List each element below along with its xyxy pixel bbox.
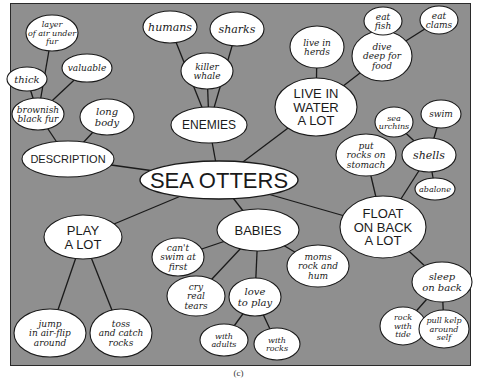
node-label: abalone — [419, 185, 451, 194]
node-moms-rock: momsrock andhum — [287, 245, 349, 287]
node-babies: BABIES — [217, 209, 299, 251]
node-killer-whale: killerwhale — [181, 53, 233, 89]
node-label: stomach — [347, 160, 385, 170]
node-label: rocks — [109, 338, 134, 348]
node-cry-real-tears: cryrealtears — [167, 276, 225, 316]
node-description: DESCRIPTION — [22, 141, 114, 177]
node-toss-and-catch: tossand catchrocks — [90, 309, 152, 357]
node-label: hum — [308, 271, 328, 281]
node-label: on back — [422, 282, 462, 293]
node-label: clams — [426, 20, 453, 30]
node-enemies: ENEMIES — [171, 107, 247, 143]
node-label: shells — [413, 149, 445, 162]
node-label: first — [168, 262, 188, 272]
node-label: sleep — [429, 271, 456, 282]
node-layer-of-air: layerof air underfur — [26, 15, 78, 51]
node-label: tears — [184, 301, 208, 311]
node-label: tide — [395, 330, 411, 339]
node-brownish-black-fur: brownishblack fur — [12, 98, 64, 130]
node-abalone: abalone — [415, 178, 455, 200]
node-with-rocks: withrocks — [254, 328, 300, 360]
node-label: self — [437, 333, 453, 342]
node-label: urchins — [379, 122, 409, 131]
node-sharks: sharks — [210, 12, 264, 46]
node-label: fur — [45, 37, 59, 46]
node-shells: shells — [402, 138, 456, 172]
node-jump-in-air: jumpin air-fliparound — [14, 309, 86, 357]
node-swim: swim — [421, 100, 461, 128]
nodes-layer: SEA OTTERSDESCRIPTIONbrownishblack furla… — [7, 6, 472, 360]
node-love-to-play: loveto play — [229, 278, 281, 316]
node-label: sharks — [219, 23, 256, 36]
node-live-in-herds: live inherds — [290, 26, 344, 68]
node-thick: thick — [7, 67, 47, 91]
node-label: to play — [238, 297, 273, 308]
node-label: A LOT — [65, 237, 102, 252]
node-label: body — [95, 117, 120, 128]
node-label: DESCRIPTION — [30, 153, 105, 165]
node-label: swim — [429, 109, 453, 119]
concept-map: SEA OTTERSDESCRIPTIONbrownishblack furla… — [0, 0, 477, 382]
node-eat-clams: eatclams — [420, 6, 458, 34]
node-label: humans — [148, 21, 192, 34]
node-sleep-on-back: sleepon back — [412, 262, 472, 302]
node-play-a-lot: PLAYA LOT — [44, 215, 122, 259]
node-live-in-water: LIVE INWATERA LOT — [275, 78, 357, 136]
node-cant-swim: can'tswim atfirst — [152, 238, 204, 276]
node-with-adults: withadults — [200, 324, 248, 356]
node-label: valuable — [68, 63, 106, 73]
figure-caption: (c) — [0, 368, 477, 378]
node-label: A LOT — [298, 113, 335, 128]
node-float-on-back: FLOATON BACKA LOT — [340, 196, 426, 258]
node-pull-kelp: pull kelparoundself — [419, 310, 469, 348]
node-label: SEA OTTERS — [150, 168, 288, 193]
node-eat-fish: eatfish — [364, 7, 402, 35]
node-label: adults — [212, 340, 237, 349]
node-label: love — [245, 286, 266, 297]
node-sea-urchins: seaurchins — [375, 107, 413, 137]
node-label: whale — [193, 71, 220, 81]
node-label: herds — [304, 47, 330, 57]
node-label: long — [96, 106, 118, 117]
node-humans: humans — [143, 11, 197, 43]
node-label: ENEMIES — [182, 118, 236, 132]
node-label: rocks — [266, 344, 288, 353]
node-label: thick — [14, 74, 39, 85]
node-put-rocks: putrocks onstomach — [336, 134, 396, 176]
node-label: fish — [374, 21, 391, 31]
node-valuable: valuable — [62, 54, 112, 82]
node-long-body: longbody — [80, 99, 134, 135]
node-sea-otters: SEA OTTERS — [140, 161, 298, 199]
node-label: A LOT — [365, 233, 402, 248]
node-label: food — [371, 61, 392, 71]
node-label: BABIES — [235, 223, 282, 238]
node-dive-deep: divedeep forfood — [352, 31, 412, 81]
node-label: black fur — [18, 114, 59, 124]
node-label: around — [34, 338, 67, 348]
